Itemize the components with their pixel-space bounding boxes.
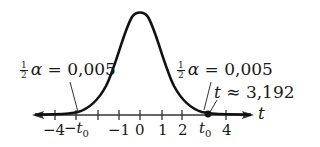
right-leader-line: [204, 82, 211, 110]
alpha-symbol: α: [188, 59, 199, 79]
alpha-symbol: α: [31, 59, 42, 79]
tick-label-zero: 0: [135, 123, 145, 138]
critical-t-symbol: t: [214, 82, 221, 102]
right-tail-value: = 0,005: [199, 59, 273, 79]
tick-label-two: 2: [178, 123, 188, 138]
tick-label-neg-t0: −t0: [64, 121, 89, 139]
tick-label-t0: t0: [199, 121, 211, 139]
tick-label-neg1: −1: [108, 123, 130, 138]
tick-label-four: 4: [222, 123, 232, 138]
left-tail-label: 12α = 0,005: [20, 61, 116, 80]
tick-label-one: 1: [158, 123, 168, 138]
right-tail-label: 12α = 0,005: [177, 61, 273, 80]
half-fraction: 12: [177, 61, 185, 80]
left-leader-line: [70, 82, 78, 112]
tick-label-neg4: −4: [43, 123, 65, 138]
left-tail-value: = 0,005: [42, 59, 116, 79]
critical-value: ≈ 3,192: [221, 82, 295, 102]
half-fraction: 12: [20, 61, 28, 80]
critical-value-label: t ≈ 3,192: [214, 84, 295, 101]
axis-variable-label: t: [258, 105, 265, 122]
